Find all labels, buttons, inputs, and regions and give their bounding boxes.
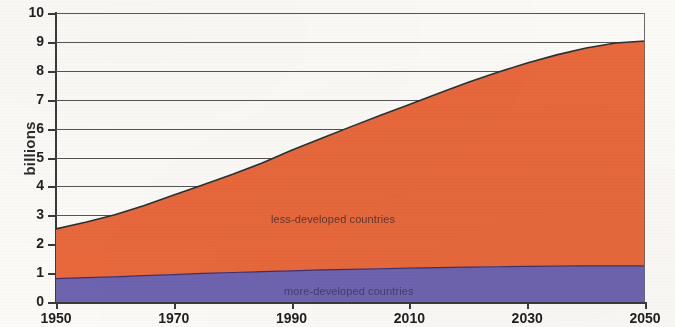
y-tick-label: 0: [18, 293, 44, 309]
y-tick-label: 5: [18, 149, 44, 165]
x-tick-label: 2030: [492, 310, 562, 326]
x-axis-line: [55, 302, 646, 304]
stacked-area-series: [56, 13, 645, 302]
x-tick: [56, 302, 58, 309]
plot-area: less-developed countries more-developed …: [56, 13, 645, 302]
x-tick-label: 1970: [139, 310, 209, 326]
x-tick-label: 2050: [610, 310, 675, 326]
y-tick: [48, 186, 56, 188]
y-tick-label: 2: [18, 235, 44, 251]
x-tick-label: 2010: [374, 310, 444, 326]
y-tick: [48, 42, 56, 44]
x-tick: [292, 302, 294, 309]
series-label-more-developed: more-developed countries: [284, 285, 414, 297]
y-tick: [48, 71, 56, 73]
x-tick: [409, 302, 411, 309]
x-tick-label: 1990: [257, 310, 327, 326]
y-tick: [48, 129, 56, 131]
y-tick-label: 10: [18, 4, 44, 20]
y-tick-label: 7: [18, 91, 44, 107]
y-tick: [48, 158, 56, 160]
y-tick: [48, 273, 56, 275]
y-tick: [48, 244, 56, 246]
y-tick: [48, 13, 56, 15]
x-tick-label: 1950: [21, 310, 91, 326]
x-tick: [645, 302, 647, 309]
y-tick-label: 9: [18, 33, 44, 49]
y-tick-label: 8: [18, 62, 44, 78]
x-tick: [527, 302, 529, 309]
y-tick-label: 6: [18, 120, 44, 136]
population-area-chart: billions less-developed countries more-d…: [0, 0, 675, 327]
plot-right-border: [644, 13, 645, 302]
y-tick-label: 3: [18, 206, 44, 222]
y-tick: [48, 302, 56, 304]
y-tick-label: 4: [18, 177, 44, 193]
y-tick: [48, 100, 56, 102]
x-tick: [174, 302, 176, 309]
area-less-developed-countries: [56, 41, 645, 279]
y-tick-label: 1: [18, 264, 44, 280]
y-tick: [48, 215, 56, 217]
series-label-less-developed: less-developed countries: [271, 213, 395, 225]
